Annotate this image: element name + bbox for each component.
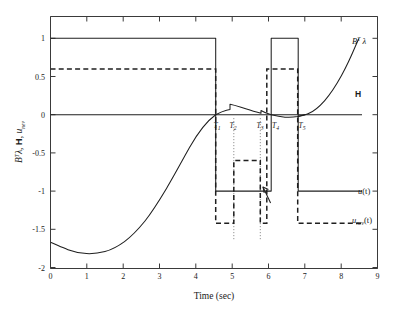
y-tick-label: -2	[38, 264, 45, 273]
y-tick-label: 0	[41, 111, 45, 120]
x-tick-label: 6	[267, 272, 271, 281]
x-tick-label: 9	[376, 272, 380, 281]
y-tick-label: 0.5	[35, 73, 45, 82]
x-tick-label: 3	[158, 272, 162, 281]
x-tick-label: 4	[194, 272, 198, 281]
y-tick-label: 1	[41, 34, 45, 43]
y-tick-label: -0.5	[32, 149, 45, 158]
x-tick-label: 2	[121, 272, 125, 281]
x-tick-label: 8	[339, 272, 343, 281]
y-tick-label: -1	[38, 187, 45, 196]
x-tick-label: 5	[230, 272, 234, 281]
chart-figure: 0 1 2 3 4 5 6 7 8 9	[0, 0, 401, 315]
legend-label-u: u(t)	[358, 186, 370, 196]
x-tick-label: 7	[303, 272, 307, 281]
x-axis-title: Time (sec)	[194, 291, 235, 302]
chart-svg: 0 1 2 3 4 5 6 7 8 9	[0, 0, 401, 315]
x-tick-label: 1	[85, 272, 89, 281]
y-tick-label: -1.5	[32, 225, 45, 234]
y-axis-title-nev: nev	[20, 121, 26, 129]
x-tick-label: 0	[49, 272, 53, 281]
legend-label-H: H	[355, 89, 361, 99]
